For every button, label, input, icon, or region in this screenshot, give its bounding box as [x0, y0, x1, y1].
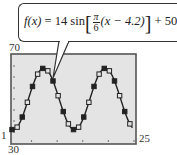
formula-text: f(x) = 14 sin[π6(x − 4.2)] + 50	[24, 12, 177, 33]
data-point-marker	[46, 69, 50, 73]
formula-func: sin	[70, 14, 85, 28]
left-bracket: [	[85, 12, 92, 34]
data-point-marker	[87, 100, 91, 104]
data-point-marker	[66, 122, 70, 126]
data-point-marker	[107, 69, 111, 73]
x-min-label: 1	[1, 129, 7, 141]
formula-lhs: f(x)	[24, 14, 41, 28]
y-max-label: 70	[9, 41, 20, 53]
formula-amplitude: 14	[55, 14, 68, 28]
y-min-label: 30	[8, 143, 19, 155]
data-point-marker	[71, 127, 75, 131]
formula-plus: +	[155, 14, 162, 28]
data-point-marker	[92, 84, 96, 88]
right-bracket: ]	[145, 12, 152, 34]
data-point-marker	[123, 109, 127, 113]
data-point-marker	[97, 72, 101, 76]
formula-equals: =	[44, 14, 51, 28]
data-point-marker	[76, 125, 80, 129]
data-point-marker	[25, 100, 29, 104]
x-max-label: 25	[139, 132, 150, 144]
data-point-marker	[35, 72, 39, 76]
data-point-marker	[30, 84, 34, 88]
data-point-marker	[112, 79, 116, 83]
frac-denominator: 6	[93, 23, 100, 33]
data-point-marker	[82, 115, 86, 119]
data-point-marker	[128, 122, 132, 126]
callout-tail-joint	[60, 40, 68, 43]
data-point-marker	[56, 94, 60, 98]
data-point-marker	[102, 66, 106, 70]
figure: f(x) = 14 sin[π6(x − 4.2)] + 50 70 30 1 …	[0, 0, 177, 155]
formula-offset: 50	[165, 14, 177, 28]
data-point-marker	[10, 127, 14, 131]
data-point-marker	[20, 115, 24, 119]
data-point-marker	[61, 109, 65, 113]
formula-inner: (x − 4.2)	[101, 14, 145, 28]
data-point-marker	[117, 94, 121, 98]
formula-fraction: π6	[93, 12, 100, 33]
data-point-marker	[51, 79, 55, 83]
data-point-marker	[15, 125, 19, 129]
data-point-marker	[41, 66, 45, 70]
